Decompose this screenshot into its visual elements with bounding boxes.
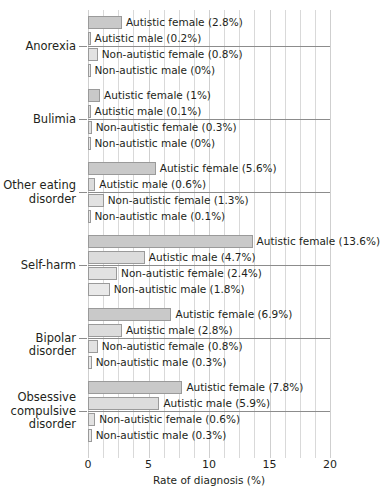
bar xyxy=(88,89,100,102)
bar-value-label: Autistic female (7.8%) xyxy=(182,381,303,394)
category-label-line: compulsive xyxy=(0,405,76,419)
bar xyxy=(88,397,159,410)
bar-value-label: Non-autistic male (0%) xyxy=(91,137,216,150)
x-tick-label: 20 xyxy=(323,458,337,471)
category-label-line: Bulimia xyxy=(0,113,76,127)
category-label-bulimia: Bulimia xyxy=(0,113,76,127)
x-tick-label: 5 xyxy=(145,458,152,471)
bar xyxy=(88,178,95,191)
bar-value-label: Non-autistic female (0.3%) xyxy=(92,121,237,134)
bar xyxy=(88,235,253,248)
bar-value-label: Non-autistic female (0.6%) xyxy=(95,413,240,426)
category-separator-line xyxy=(88,265,330,266)
bar-value-label: Autistic male (0.2%) xyxy=(91,32,202,45)
category-label-line: Other eating xyxy=(0,179,76,193)
bar-value-label: Autistic female (1%) xyxy=(100,89,211,102)
bar-value-label: Non-autistic male (1.8%) xyxy=(110,283,245,296)
bar xyxy=(88,16,122,29)
gridline-major xyxy=(330,10,331,458)
category-label-line: disorder xyxy=(0,418,76,432)
bar-value-label: Non-autistic female (0.8%) xyxy=(98,48,243,61)
bar xyxy=(88,251,145,264)
bar-value-label: Autistic female (5.6%) xyxy=(156,162,277,175)
bar xyxy=(88,340,98,353)
category-tick xyxy=(79,411,87,412)
bar-value-label: Non-autistic female (2.4%) xyxy=(117,267,262,280)
bar xyxy=(88,162,156,175)
bar-value-label: Non-autistic male (0.3%) xyxy=(92,429,227,442)
category-label-line: Obsessive xyxy=(0,391,76,405)
category-label-line: Anorexia xyxy=(0,40,76,54)
bar-value-label: Autistic female (2.8%) xyxy=(122,16,243,29)
category-separator-line xyxy=(88,46,330,47)
category-separator-line xyxy=(88,411,330,412)
category-label-line: Bipolar disorder xyxy=(0,332,76,359)
bar-value-label: Non-autistic male (0.3%) xyxy=(92,356,227,369)
bar-value-label: Autistic male (5.9%) xyxy=(159,397,270,410)
bar xyxy=(88,283,110,296)
bar xyxy=(88,324,122,337)
bar xyxy=(88,267,117,280)
x-axis-title: Rate of diagnosis (%) xyxy=(88,474,330,486)
bar-value-label: Non-autistic male (0%) xyxy=(91,64,216,77)
category-tick xyxy=(79,46,87,47)
category-tick xyxy=(79,265,87,266)
plot-area: Autistic female (2.8%)Autistic male (0.2… xyxy=(88,10,330,458)
category-label-self-harm: Self-harm xyxy=(0,259,76,273)
x-tick-label: 10 xyxy=(202,458,216,471)
bar-value-label: Non-autistic female (1.3%) xyxy=(104,194,249,207)
bar xyxy=(88,381,182,394)
bar-value-label: Non-autistic male (0.1%) xyxy=(91,210,226,223)
category-label-other-eating-disorder: Other eatingdisorder xyxy=(0,179,76,206)
bar xyxy=(88,194,104,207)
x-axis-ticks: 05101520 xyxy=(88,458,330,474)
x-tick-label: 15 xyxy=(263,458,277,471)
category-label-bipolar-disorder: Bipolar disorder xyxy=(0,332,76,359)
gridline-minor xyxy=(315,10,316,458)
category-label-anorexia: Anorexia xyxy=(0,40,76,54)
bar-value-label: Non-autistic female (0.8%) xyxy=(98,340,243,353)
bar xyxy=(88,413,95,426)
bar-value-label: Autistic female (13.6%) xyxy=(253,235,380,248)
bar xyxy=(88,48,98,61)
category-separator-line xyxy=(88,119,330,120)
bar xyxy=(88,308,171,321)
x-tick-label: 0 xyxy=(85,458,92,471)
bar-value-label: Autistic male (2.8%) xyxy=(122,324,233,337)
category-tick xyxy=(79,119,87,120)
bar-value-label: Autistic male (4.7%) xyxy=(145,251,256,264)
category-label-obsessive-compulsive-disorder: Obsessivecompulsivedisorder xyxy=(0,391,76,432)
category-tick xyxy=(79,192,87,193)
category-tick xyxy=(79,338,87,339)
bar-value-label: Autistic female (6.9%) xyxy=(171,308,292,321)
bar-value-label: Autistic male (0.1%) xyxy=(91,105,202,118)
category-label-line: Self-harm xyxy=(0,259,76,273)
category-separator-line xyxy=(88,192,330,193)
bar-value-label: Autistic male (0.6%) xyxy=(95,178,206,191)
category-label-line: disorder xyxy=(0,193,76,207)
category-separator-line xyxy=(88,338,330,339)
